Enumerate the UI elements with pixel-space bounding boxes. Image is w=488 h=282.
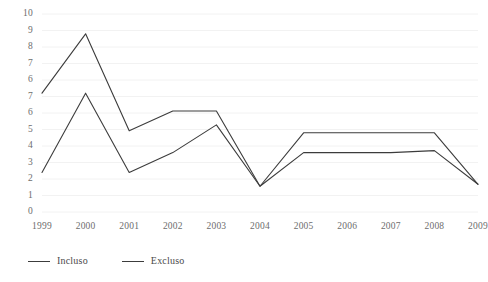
series-lines	[42, 14, 478, 212]
x-axis: 1999200020012002200320042005200620072008…	[42, 222, 478, 242]
y-axis-tick-label: 4	[28, 141, 33, 151]
legend-item-incluso[interactable]: Incluso	[28, 256, 88, 266]
y-axis-tick-label: 6	[28, 108, 33, 118]
x-axis-tick-label: 2000	[76, 222, 96, 232]
legend-item-excluso[interactable]: Excluso	[122, 256, 185, 266]
x-axis-tick-label: 2003	[206, 222, 226, 232]
series-line-excluso	[42, 34, 478, 186]
y-axis-tick-label: 1	[28, 191, 33, 201]
chart-legend: InclusoExcluso	[28, 256, 184, 266]
y-axis-tick-label: 8	[28, 42, 33, 52]
legend-label: Excluso	[151, 256, 185, 266]
legend-line-icon	[122, 261, 144, 262]
legend-label: Incluso	[57, 256, 88, 266]
x-axis-tick-label: 2008	[424, 222, 444, 232]
y-axis-tick-label: 3	[28, 158, 33, 168]
x-axis-tick-label: 2002	[163, 222, 183, 232]
y-axis: 10987676543210	[0, 0, 42, 220]
plot-area	[42, 14, 478, 212]
x-axis-tick-label: 2005	[294, 222, 314, 232]
x-axis-tick-label: 1999	[32, 222, 52, 232]
series-line-incluso	[42, 93, 478, 186]
y-axis-tick-label: 2	[28, 174, 33, 184]
y-axis-tick-label: 6	[28, 75, 33, 85]
y-axis-tick-label: 7	[28, 92, 33, 102]
y-axis-tick-label: 5	[28, 125, 33, 135]
x-axis-tick-label: 2006	[337, 222, 357, 232]
x-axis-tick-label: 2007	[381, 222, 401, 232]
x-axis-tick-label: 2001	[119, 222, 139, 232]
y-axis-tick-label: 0	[28, 207, 33, 217]
y-axis-tick-label: 7	[28, 59, 33, 69]
x-axis-tick-label: 2009	[468, 222, 488, 232]
y-axis-tick-label: 9	[28, 26, 33, 36]
y-axis-tick-label: 10	[23, 9, 33, 19]
legend-line-icon	[28, 261, 50, 262]
x-axis-tick-label: 2004	[250, 222, 270, 232]
